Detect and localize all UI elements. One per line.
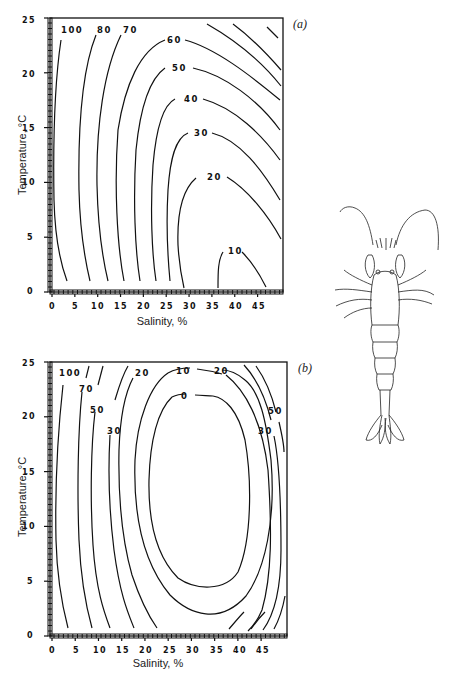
contour-20 bbox=[119, 378, 157, 628]
panel-b-contour-labels: 100 70 50 30 20 10 0 20 50 30 bbox=[59, 366, 283, 436]
y-tick-label: 25 bbox=[22, 16, 36, 25]
panel-b-x-axis-title: Salinity, % bbox=[133, 657, 184, 669]
panel-a-x-axis-title: Salinity, % bbox=[137, 315, 188, 327]
contour-70 bbox=[78, 392, 92, 628]
contour-80 bbox=[79, 35, 96, 281]
panel-b-y-axis-bar bbox=[44, 362, 52, 636]
panel-b: 100 70 50 30 20 10 0 20 50 30 0 5 10 15 … bbox=[16, 359, 312, 669]
figure-canvas: 100 80 70 60 50 40 30 20 10 0 5 10 15 20… bbox=[0, 0, 459, 680]
contour-label: 50 bbox=[90, 405, 105, 415]
x-tick-label: 45 bbox=[252, 302, 266, 311]
x-tick-label: 10 bbox=[93, 646, 107, 655]
contour-label: 30 bbox=[107, 426, 122, 436]
contour-20-right bbox=[227, 177, 281, 239]
contour-0-top-right bbox=[195, 395, 213, 396]
contour-100 bbox=[56, 385, 68, 628]
y-tick-label: 5 bbox=[27, 233, 34, 242]
y-tick-label: 0 bbox=[27, 287, 34, 296]
x-tick-label: 25 bbox=[163, 646, 177, 655]
panel-a: 100 80 70 60 50 40 30 20 10 0 5 10 15 20… bbox=[16, 16, 307, 327]
y-tick-label: 20 bbox=[22, 70, 36, 79]
x-tick-label: 45 bbox=[256, 646, 270, 655]
contour-label: 30 bbox=[194, 128, 209, 138]
contour-label: 50 bbox=[268, 406, 283, 416]
panel-a-x-ticks: 0 5 10 15 20 25 30 35 40 45 bbox=[49, 302, 266, 311]
panel-a-x-axis-bar bbox=[50, 290, 283, 297]
contour-50-right-low bbox=[279, 422, 284, 452]
x-tick-label: 5 bbox=[72, 302, 79, 311]
contour-label: 80 bbox=[97, 25, 112, 35]
contour-label: 70 bbox=[123, 25, 138, 35]
x-tick-label: 15 bbox=[114, 302, 128, 311]
contour-upper-right-2 bbox=[233, 24, 281, 70]
contour-10-right bbox=[242, 252, 266, 287]
contour-40-right bbox=[203, 99, 280, 160]
x-tick-label: 20 bbox=[137, 302, 151, 311]
panel-a-contours bbox=[54, 24, 281, 288]
contour-60 bbox=[116, 40, 165, 281]
contour-70 bbox=[97, 35, 121, 281]
x-tick-label: 35 bbox=[210, 646, 224, 655]
contour-label: 10 bbox=[228, 246, 243, 256]
y-tick-label: 25 bbox=[22, 359, 36, 368]
contour-corner-2 bbox=[251, 612, 265, 629]
contour-50 bbox=[91, 412, 110, 628]
contour-label: 100 bbox=[61, 25, 83, 35]
contour-50-right bbox=[193, 68, 280, 130]
x-tick-label: 30 bbox=[183, 302, 197, 311]
contour-30-right bbox=[244, 365, 271, 420]
contour-label: 40 bbox=[184, 94, 199, 104]
contour-10 bbox=[218, 252, 223, 288]
y-tick-label: 20 bbox=[22, 412, 36, 421]
x-tick-label: 0 bbox=[49, 646, 56, 655]
x-tick-label: 35 bbox=[206, 302, 220, 311]
contour-label: 10 bbox=[176, 366, 191, 376]
contour-30 bbox=[109, 435, 134, 628]
contour-50 bbox=[135, 68, 165, 281]
x-tick-label: 30 bbox=[186, 646, 200, 655]
contour-label: 60 bbox=[167, 35, 182, 45]
panel-b-x-axis-bar bbox=[50, 634, 287, 641]
contour-corner-1 bbox=[229, 612, 244, 629]
contour-10 bbox=[135, 370, 272, 614]
panel-b-frame bbox=[50, 362, 287, 636]
panel-a-label: (a) bbox=[293, 17, 307, 31]
contour-label: 20 bbox=[214, 366, 229, 376]
contour-label: 20 bbox=[135, 368, 150, 378]
x-tick-label: 20 bbox=[139, 646, 153, 655]
contour-label: 0 bbox=[181, 391, 188, 401]
contour-50-upper bbox=[98, 366, 103, 385]
contour-30-right bbox=[212, 133, 280, 200]
x-tick-label: 40 bbox=[233, 646, 247, 655]
contour-label: 70 bbox=[79, 384, 94, 394]
panel-b-x-ticks: 0 5 10 15 20 25 30 35 40 45 bbox=[49, 646, 270, 655]
contour-30 bbox=[167, 133, 188, 281]
panel-a-y-axis-bar bbox=[44, 18, 52, 292]
x-tick-label: 0 bbox=[49, 302, 56, 311]
y-tick-label: 5 bbox=[27, 577, 34, 586]
x-tick-label: 40 bbox=[229, 302, 243, 311]
contour-0 bbox=[149, 396, 250, 587]
x-tick-label: 5 bbox=[73, 646, 80, 655]
contour-20 bbox=[178, 178, 196, 288]
x-tick-label: 10 bbox=[91, 302, 105, 311]
panel-a-frame bbox=[50, 18, 283, 292]
x-tick-label: 25 bbox=[160, 302, 174, 311]
panel-b-y-axis-title: Temperature, °C bbox=[16, 457, 28, 537]
contour-100 bbox=[54, 40, 67, 281]
x-tick-label: 15 bbox=[116, 646, 130, 655]
contour-label: 30 bbox=[258, 426, 273, 436]
contour-label: 50 bbox=[172, 63, 187, 73]
y-tick-label: 0 bbox=[27, 631, 34, 640]
panel-b-label: (b) bbox=[298, 361, 312, 375]
contour-40 bbox=[152, 99, 175, 281]
contour-upper-right-3 bbox=[267, 27, 278, 38]
contour-label: 20 bbox=[207, 172, 222, 182]
shrimp-illustration bbox=[335, 207, 438, 444]
contour-label: 100 bbox=[59, 368, 81, 378]
panel-a-y-axis-title: Temperature, °C bbox=[16, 115, 28, 195]
contour-70-upper bbox=[86, 366, 89, 378]
contour-30-right-low bbox=[263, 436, 281, 630]
